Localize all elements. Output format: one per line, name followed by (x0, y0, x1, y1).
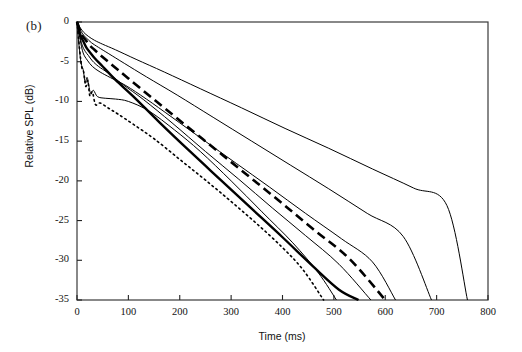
x-tick-label: 700 (415, 306, 459, 317)
decay-curve (77, 22, 385, 300)
plot-frame (77, 22, 488, 300)
y-tick-label: -15 (35, 134, 69, 145)
decay-curve (77, 22, 336, 300)
x-tick-label: 100 (106, 306, 150, 317)
x-tick-label: 600 (363, 306, 407, 317)
decay-curves-plot (0, 0, 522, 352)
y-tick-label: -10 (35, 94, 69, 105)
figure-panel-b: (b) Relative SPL (dB) Time (ms) 0-5-10-1… (0, 0, 522, 352)
x-tick-label: 800 (466, 306, 510, 317)
decay-curve (77, 22, 359, 300)
y-tick-label: -20 (35, 174, 69, 185)
y-tick-label: -35 (35, 293, 69, 304)
x-tick-label: 500 (312, 306, 356, 317)
decay-curve (77, 22, 467, 300)
decay-curve (77, 22, 431, 300)
decay-curve (77, 22, 371, 300)
x-tick-label: 400 (261, 306, 305, 317)
y-tick-label: -25 (35, 214, 69, 225)
y-tick-label: -30 (35, 253, 69, 264)
x-tick-label: 200 (158, 306, 202, 317)
x-tick-label: 300 (209, 306, 253, 317)
y-tick-label: 0 (35, 15, 69, 26)
x-tick-label: 0 (55, 306, 99, 317)
y-tick-label: -5 (35, 55, 69, 66)
